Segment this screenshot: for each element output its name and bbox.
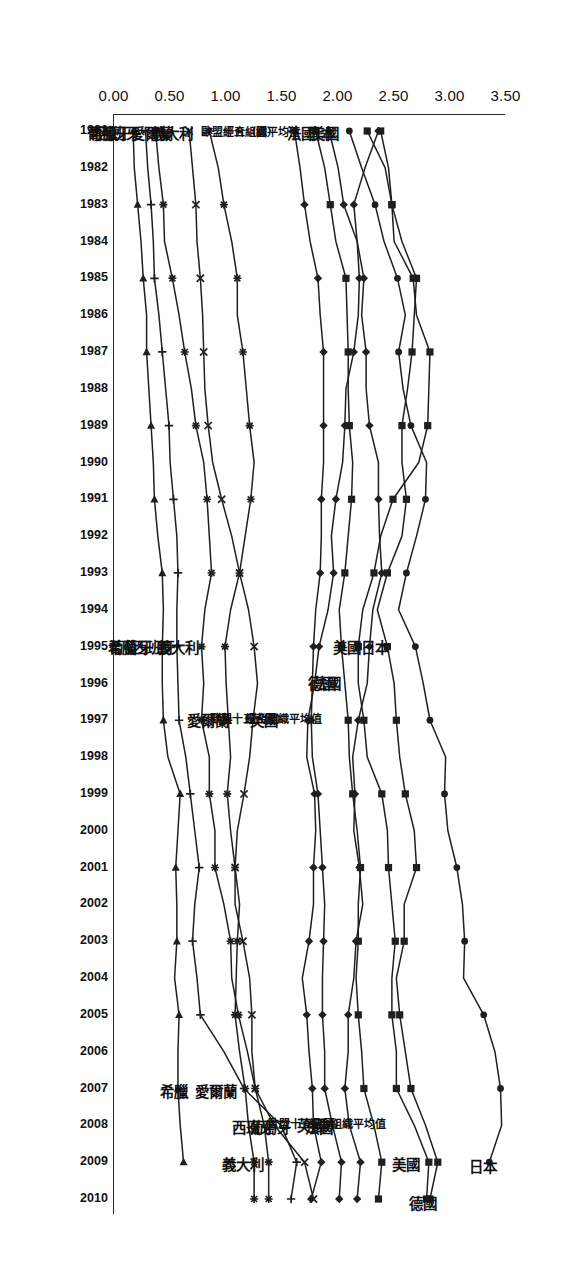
value-axis-tick: 3.50 <box>497 36 514 110</box>
series-label: 經合組織平均值 <box>222 127 299 138</box>
year-axis-tick: 2010 <box>87 1168 101 1228</box>
value-axis-tick: 0.50 <box>161 36 178 110</box>
series-label: 愛爾蘭 <box>195 1085 237 1100</box>
series-label: 美國 <box>333 641 361 656</box>
series-label: 希臘 <box>108 641 136 656</box>
series-英國 <box>302 127 382 1203</box>
series-葡萄牙 <box>141 127 301 1203</box>
value-axis-tick: 1.00 <box>217 36 234 110</box>
series-義大利 <box>205 127 258 1203</box>
value-axis-tick: 2.00 <box>329 36 346 110</box>
plot-area: 日本美國德國經合組織平均值法國歐盟十五（國）英國愛爾蘭葡萄牙西班牙義大利希臘日本… <box>113 114 505 1214</box>
value-axis-tick: 0.00 <box>105 36 122 110</box>
value-axis-tick: 1.50 <box>273 36 290 110</box>
series-label: 英國 <box>297 1119 325 1134</box>
series-label: 經合組織平均值 <box>245 714 322 725</box>
series-愛爾蘭 <box>185 127 317 1202</box>
series-label: 希臘 <box>159 1085 187 1100</box>
series-label: 義大利 <box>222 1158 264 1173</box>
series-label: 日本 <box>361 641 389 656</box>
series-德國 <box>354 127 433 1202</box>
value-axis-tick: 2.50 <box>385 36 402 110</box>
series-label: 德國 <box>308 677 336 692</box>
series-西班牙 <box>151 127 272 1203</box>
series-canvas <box>113 115 505 1215</box>
value-axis-tick: 3.00 <box>441 36 458 110</box>
series-label: 西班牙 <box>232 1121 274 1136</box>
series-label: 德國 <box>408 1197 436 1212</box>
series-美國 <box>363 127 441 1202</box>
series-label: 愛爾蘭 <box>187 714 229 729</box>
year-axis-ticks: 1981198219831984198519861987198819891990… <box>51 114 107 1214</box>
series-法國 <box>324 127 385 1203</box>
rotated-chart-stage: 0.000.501.001.502.002.503.003.50 日本美國德國經… <box>47 36 517 1246</box>
series-label: 美國 <box>391 1158 419 1173</box>
chart-page: 0.000.501.001.502.002.503.003.50 日本美國德國經… <box>0 0 563 1282</box>
series-label: 日本 <box>469 1160 497 1175</box>
